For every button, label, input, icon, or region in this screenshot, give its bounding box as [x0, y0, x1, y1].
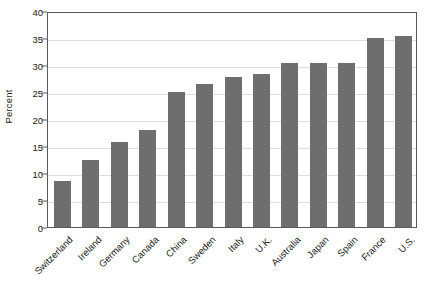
- bars-layer: [48, 13, 416, 227]
- y-axis-tick-label: 10: [2, 169, 43, 180]
- y-axis-tick-label: 5: [2, 196, 43, 207]
- x-axis-tick-labels: SwitzerlandIrelandGermanyCanadaChinaSwed…: [0, 228, 425, 286]
- y-axis-tick-mark: [41, 12, 47, 13]
- y-axis-tick-label: 30: [2, 61, 43, 72]
- y-axis-tick-label: 40: [2, 7, 43, 18]
- bar[interactable]: [338, 63, 355, 227]
- plot-area: [47, 12, 417, 228]
- y-axis-tick-mark: [41, 174, 47, 175]
- y-axis-tick-label: 25: [2, 88, 43, 99]
- bar[interactable]: [168, 92, 185, 227]
- bar-chart: Percent 0510152025303540 SwitzerlandIrel…: [0, 0, 425, 286]
- bar[interactable]: [111, 142, 128, 227]
- bar[interactable]: [139, 130, 156, 227]
- y-axis-tick-mark: [41, 201, 47, 202]
- y-axis-tick-label: 15: [2, 142, 43, 153]
- bar[interactable]: [367, 38, 384, 227]
- bar[interactable]: [54, 181, 71, 227]
- bar[interactable]: [82, 160, 99, 228]
- bar[interactable]: [310, 63, 327, 227]
- bar[interactable]: [395, 36, 412, 227]
- bar[interactable]: [253, 74, 270, 227]
- bar[interactable]: [196, 84, 213, 227]
- y-axis-tick-label: 20: [2, 115, 43, 126]
- y-axis-tick-mark: [41, 93, 47, 94]
- y-axis-tick-mark: [41, 120, 47, 121]
- y-axis-tick-mark: [41, 39, 47, 40]
- y-axis-tick-mark: [41, 147, 47, 148]
- y-axis-tick-mark: [41, 228, 47, 229]
- y-axis-tick-label: 35: [2, 34, 43, 45]
- bar[interactable]: [225, 77, 242, 227]
- bar[interactable]: [281, 63, 298, 227]
- y-axis-tick-mark: [41, 66, 47, 67]
